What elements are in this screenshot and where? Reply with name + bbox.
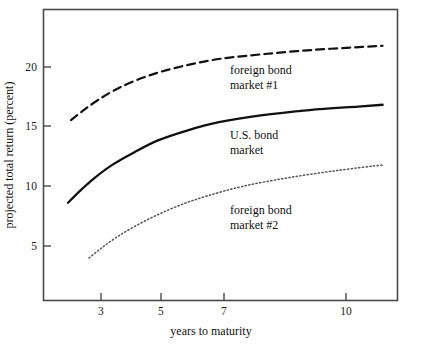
series-annotation-foreign-bond-market-1: foreign bondmarket #1 <box>230 63 292 92</box>
x-tick-label-7: 7 <box>221 305 227 317</box>
x-tick-label-10: 10 <box>340 305 352 317</box>
data-series-group <box>68 46 383 258</box>
annotation-line: foreign bond <box>230 203 292 218</box>
chart-figure: 5 10 15 20 3 5 7 10 years to maturity pr… <box>0 0 422 348</box>
plot-frame <box>44 10 398 301</box>
chart-plot-area <box>0 0 422 348</box>
x-tick-label-5: 5 <box>158 305 164 317</box>
y-axis-title: projected total return (percent) <box>2 9 20 301</box>
annotation-line: foreign bond <box>230 63 292 78</box>
x-axis-ticks <box>101 293 346 301</box>
annotation-line: market #1 <box>230 78 292 93</box>
series-annotation-foreign-bond-market-2: foreign bondmarket #2 <box>230 203 292 232</box>
x-tick-label-3: 3 <box>98 305 104 317</box>
x-axis-title: years to maturity <box>0 324 422 339</box>
annotation-line: market <box>230 143 278 158</box>
annotation-line: market #2 <box>230 218 292 233</box>
annotation-line: U.S. bond <box>230 128 278 143</box>
y-axis-ticks <box>44 67 52 246</box>
series-annotation-us-bond-market: U.S. bondmarket <box>230 128 278 157</box>
series-line-us-bond-market <box>68 105 383 203</box>
